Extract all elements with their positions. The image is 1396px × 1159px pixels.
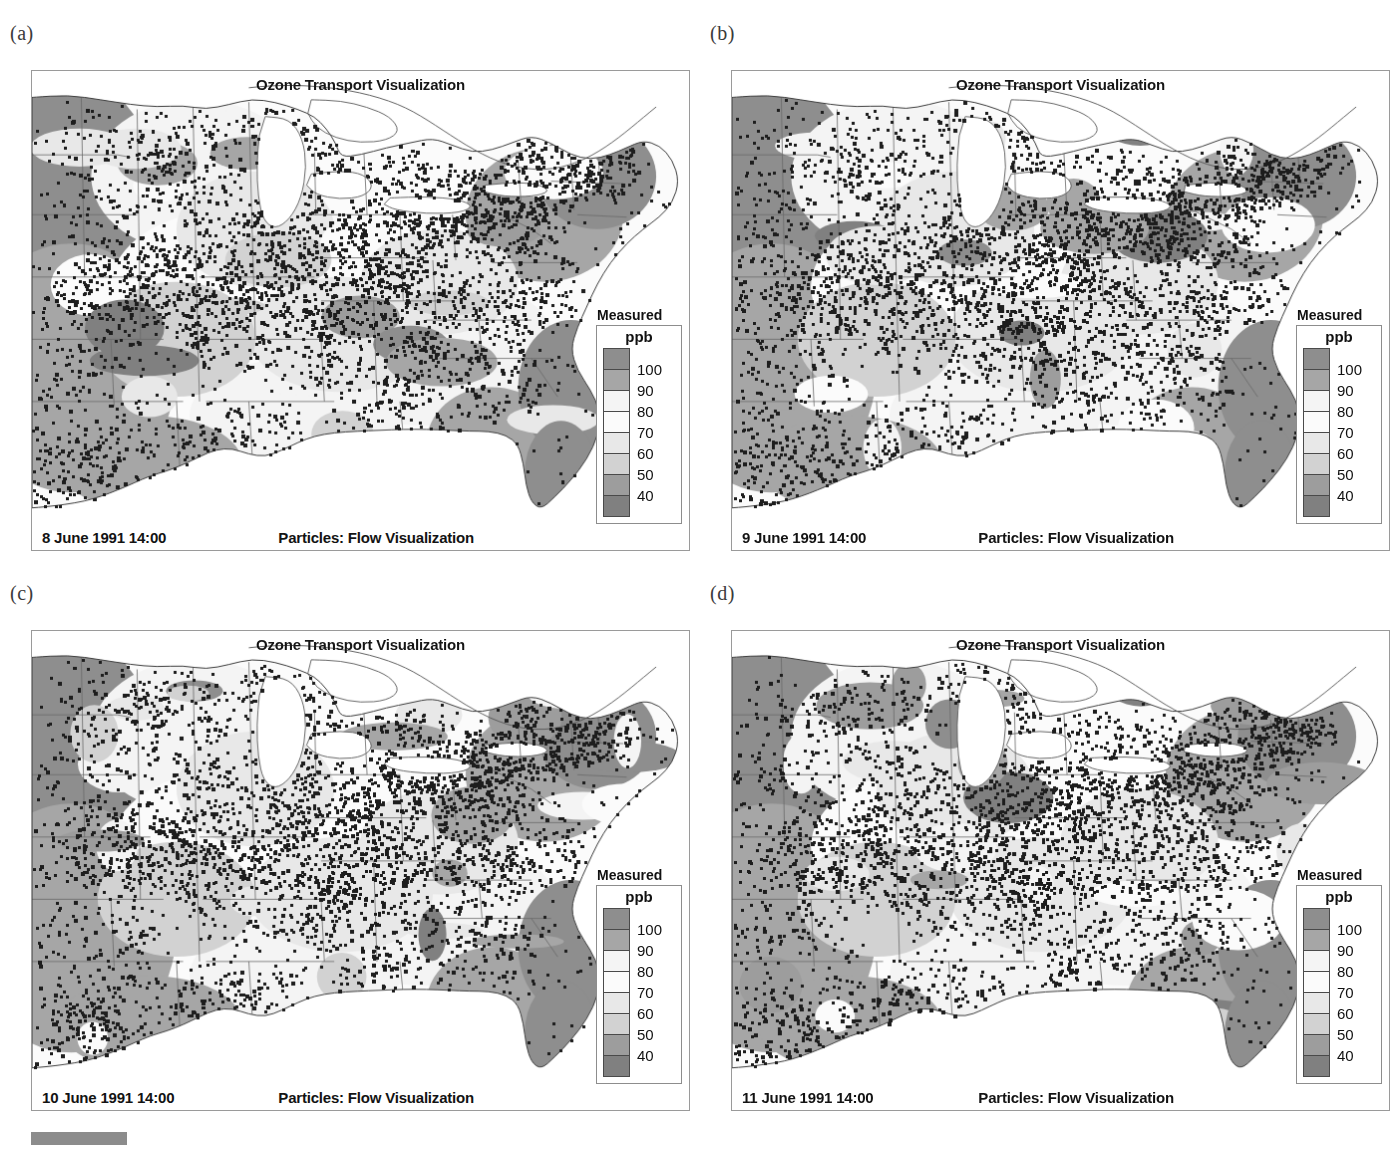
- legend-tick-100: 100: [637, 922, 662, 937]
- panel-a-timestamp: 8 June 1991 14:00: [42, 529, 166, 546]
- legend-tick-50: 50: [637, 1027, 654, 1042]
- figure-caption-marker: [31, 1132, 127, 1145]
- legend-swatch-1: [604, 370, 629, 391]
- legend-swatch-5: [604, 1014, 629, 1035]
- ozone-map-b[interactable]: [732, 71, 1389, 550]
- legend-tick-70: 70: [1337, 985, 1354, 1000]
- legend-tick-70: 70: [637, 985, 654, 1000]
- legend-tick-100: 100: [1337, 922, 1362, 937]
- panel-c-legend-unit: ppb: [603, 889, 675, 905]
- panel-d-footer: 11 June 1991 14:00 Particles: Flow Visua…: [732, 1084, 1389, 1106]
- panel-d-legend-title: Measured: [1296, 867, 1382, 883]
- legend-tick-90: 90: [637, 383, 654, 398]
- legend-swatch-4: [604, 993, 629, 1014]
- panel-a-legend-body: 100908070605040: [603, 348, 675, 517]
- legend-swatch-6: [1304, 1035, 1329, 1056]
- legend-swatch-1: [604, 930, 629, 951]
- legend-tick-90: 90: [1337, 943, 1354, 958]
- legend-tick-70: 70: [1337, 425, 1354, 440]
- panel-c: (c) Ozone Transport Visualization 10 Jun…: [0, 582, 700, 1122]
- panel-c-label: (c): [10, 582, 34, 605]
- legend-swatch-0: [604, 349, 629, 370]
- legend-swatch-1: [1304, 930, 1329, 951]
- panel-d-legend-box: ppb 100908070605040: [1296, 885, 1382, 1084]
- legend-tick-90: 90: [637, 943, 654, 958]
- legend-swatch-6: [1304, 475, 1329, 496]
- panel-c-map-title: Ozone Transport Visualization: [32, 636, 689, 653]
- panel-c-map-frame[interactable]: Ozone Transport Visualization 10 June 19…: [31, 630, 690, 1111]
- legend-swatch-4: [604, 433, 629, 454]
- legend-tick-70: 70: [637, 425, 654, 440]
- panel-d-label: (d): [710, 582, 735, 605]
- legend-swatch-3: [604, 412, 629, 433]
- panel-d-legend-unit: ppb: [1303, 889, 1375, 905]
- panel-c-legend-title: Measured: [596, 867, 682, 883]
- panel-d-legend-ticks: 100908070605040: [1337, 908, 1375, 1070]
- panel-a-legend-ticks: 100908070605040: [637, 348, 675, 510]
- panel-b-legend-body: 100908070605040: [1303, 348, 1375, 517]
- legend-swatch-5: [1304, 454, 1329, 475]
- legend-swatch-3: [604, 972, 629, 993]
- panel-b-label: (b): [710, 22, 735, 45]
- panel-c-legend-swatches: [603, 908, 630, 1077]
- legend-tick-50: 50: [637, 467, 654, 482]
- panel-a-legend-swatches: [603, 348, 630, 517]
- panel-b-footer: 9 June 1991 14:00 Particles: Flow Visual…: [732, 524, 1389, 546]
- legend-tick-100: 100: [1337, 362, 1362, 377]
- panel-c-caption: Particles: Flow Visualization: [278, 1089, 474, 1106]
- legend-tick-80: 80: [637, 964, 654, 979]
- panel-a-legend: Measured ppb 100908070605040: [596, 307, 682, 524]
- panel-c-legend-body: 100908070605040: [603, 908, 675, 1077]
- panel-b-legend-unit: ppb: [1303, 329, 1375, 345]
- panel-a-map-title: Ozone Transport Visualization: [32, 76, 689, 93]
- panel-a-legend-title: Measured: [596, 307, 682, 323]
- panel-b-legend-box: ppb 100908070605040: [1296, 325, 1382, 524]
- panel-a-legend-unit: ppb: [603, 329, 675, 345]
- legend-swatch-4: [1304, 433, 1329, 454]
- panel-d-legend-body: 100908070605040: [1303, 908, 1375, 1077]
- legend-tick-50: 50: [1337, 1027, 1354, 1042]
- legend-swatch-4: [1304, 993, 1329, 1014]
- legend-tick-40: 40: [1337, 488, 1354, 503]
- ozone-map-a[interactable]: [32, 71, 689, 550]
- legend-tick-40: 40: [637, 488, 654, 503]
- panel-a-map-frame[interactable]: Ozone Transport Visualization 8 June 199…: [31, 70, 690, 551]
- legend-swatch-1: [1304, 370, 1329, 391]
- legend-swatch-0: [1304, 909, 1329, 930]
- legend-tick-100: 100: [637, 362, 662, 377]
- panel-c-legend-box: ppb 100908070605040: [596, 885, 682, 1084]
- panel-d-timestamp: 11 June 1991 14:00: [742, 1089, 874, 1106]
- legend-swatch-3: [1304, 972, 1329, 993]
- legend-tick-50: 50: [1337, 467, 1354, 482]
- panel-c-footer: 10 June 1991 14:00 Particles: Flow Visua…: [32, 1084, 689, 1106]
- panel-c-legend: Measured ppb 100908070605040: [596, 867, 682, 1084]
- legend-tick-40: 40: [637, 1048, 654, 1063]
- legend-swatch-7: [604, 1056, 629, 1076]
- panel-b-map-frame[interactable]: Ozone Transport Visualization 9 June 199…: [731, 70, 1390, 551]
- panel-b-legend-title: Measured: [1296, 307, 1382, 323]
- legend-swatch-2: [604, 391, 629, 412]
- panel-d: (d) Ozone Transport Visualization 11 Jun…: [700, 582, 1396, 1122]
- panel-a: (a) Ozone Transport Visualization 8 June…: [0, 22, 700, 562]
- panel-d-map-frame[interactable]: Ozone Transport Visualization 11 June 19…: [731, 630, 1390, 1111]
- legend-swatch-2: [604, 951, 629, 972]
- panel-a-label: (a): [10, 22, 34, 45]
- ozone-map-d[interactable]: [732, 631, 1389, 1110]
- panel-a-caption: Particles: Flow Visualization: [278, 529, 474, 546]
- figure-panel-grid: (a) Ozone Transport Visualization 8 June…: [0, 0, 1396, 1159]
- panel-d-legend-swatches: [1303, 908, 1330, 1077]
- legend-swatch-5: [1304, 1014, 1329, 1035]
- panel-d-map-title: Ozone Transport Visualization: [732, 636, 1389, 653]
- legend-swatch-2: [1304, 951, 1329, 972]
- panel-d-caption: Particles: Flow Visualization: [978, 1089, 1174, 1106]
- legend-tick-40: 40: [1337, 1048, 1354, 1063]
- legend-swatch-6: [604, 475, 629, 496]
- legend-tick-60: 60: [637, 1006, 654, 1021]
- panel-d-legend: Measured ppb 100908070605040: [1296, 867, 1382, 1084]
- legend-swatch-7: [1304, 496, 1329, 516]
- ozone-map-c[interactable]: [32, 631, 689, 1110]
- legend-tick-60: 60: [1337, 1006, 1354, 1021]
- panel-b-legend-swatches: [1303, 348, 1330, 517]
- legend-swatch-7: [604, 496, 629, 516]
- panel-b-legend-ticks: 100908070605040: [1337, 348, 1375, 510]
